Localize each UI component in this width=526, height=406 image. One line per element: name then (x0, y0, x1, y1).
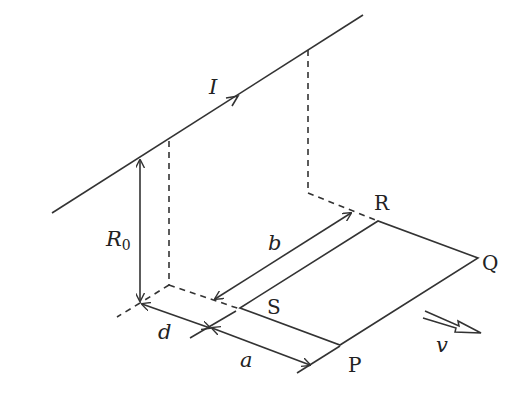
velocity-arrow-icon (423, 311, 481, 333)
current-wire (52, 15, 363, 213)
velocity-label: v (436, 333, 448, 357)
side-b-label: b (268, 231, 281, 255)
physics-diagram: I R0 R Q P S d a b v (0, 0, 526, 406)
vertex-p-label: P (348, 353, 361, 377)
height-r0-label: R0 (105, 227, 131, 253)
side-a-arrow (212, 328, 310, 365)
dimension-ticks (190, 311, 340, 373)
vertex-r-label: R (374, 191, 390, 215)
current-label: I (208, 75, 218, 99)
distance-d-label: d (158, 320, 171, 344)
projection-lines (117, 50, 378, 317)
side-a-label: a (240, 348, 253, 372)
distance-d-arrow (142, 304, 210, 328)
vertex-s-label: S (267, 295, 281, 319)
side-b-arrow (215, 213, 351, 299)
vertex-q-label: Q (482, 251, 498, 275)
